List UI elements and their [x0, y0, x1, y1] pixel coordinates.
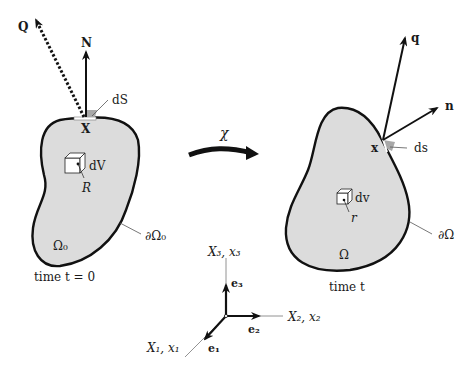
- basis-e1-arrow: [205, 316, 226, 339]
- label-dV: dV: [89, 159, 106, 173]
- mapping-chi: χ: [189, 125, 259, 160]
- leader-boundary: [410, 222, 432, 234]
- label-Q: Q: [18, 20, 28, 34]
- reference-body: Q N dS X dV R Ω₀ ∂Ω₀ time t = 0: [18, 20, 166, 284]
- label-X2-x2: X₂, x₂: [287, 310, 321, 324]
- vector-Q-dotted: [36, 20, 84, 117]
- label-dv: dv: [355, 191, 370, 205]
- label-ds: ds: [414, 141, 428, 155]
- label-X: X: [81, 122, 91, 136]
- label-time0: time t = 0: [34, 270, 95, 284]
- deformation-diagram: Q N dS X dV R Ω₀ ∂Ω₀ time t = 0 χ: [0, 0, 475, 376]
- label-n: n: [445, 99, 454, 113]
- label-omega0: Ω₀: [53, 239, 68, 253]
- label-boundary: ∂Ω: [438, 228, 454, 242]
- label-boundary0: ∂Ω₀: [145, 229, 166, 243]
- label-R: R: [81, 181, 91, 195]
- origin-point: [224, 314, 227, 317]
- coordinate-axes: X₃, x₃ e₃ e₂ X₂, x₂ e₁ X₁, x₁: [146, 245, 321, 357]
- shaded-patch-dS: [86, 110, 97, 117]
- label-x: x: [371, 141, 379, 155]
- curved-arrowhead: [246, 146, 259, 160]
- current-body: q n ds x dv r Ω ∂Ω time t: [286, 31, 454, 294]
- vector-q: [383, 38, 405, 140]
- leader-dS: [92, 100, 108, 116]
- label-omega: Ω: [339, 248, 349, 262]
- label-chi: χ: [219, 125, 230, 141]
- label-dS: dS: [112, 93, 128, 107]
- label-e1: e₁: [208, 342, 220, 355]
- label-e2: e₂: [248, 323, 260, 336]
- label-q: q: [411, 31, 420, 45]
- curved-arrow: [189, 149, 252, 155]
- label-X1-x1: X₁, x₁: [146, 341, 180, 355]
- label-time: time t: [329, 280, 365, 294]
- surface-patch-dS: [74, 117, 96, 120]
- label-e3: e₃: [231, 277, 243, 290]
- normal-vector-n: [383, 108, 437, 140]
- label-N: N: [81, 36, 92, 50]
- leader-boundary-0: [120, 223, 141, 234]
- label-X3-x3: X₃, x₃: [207, 245, 241, 259]
